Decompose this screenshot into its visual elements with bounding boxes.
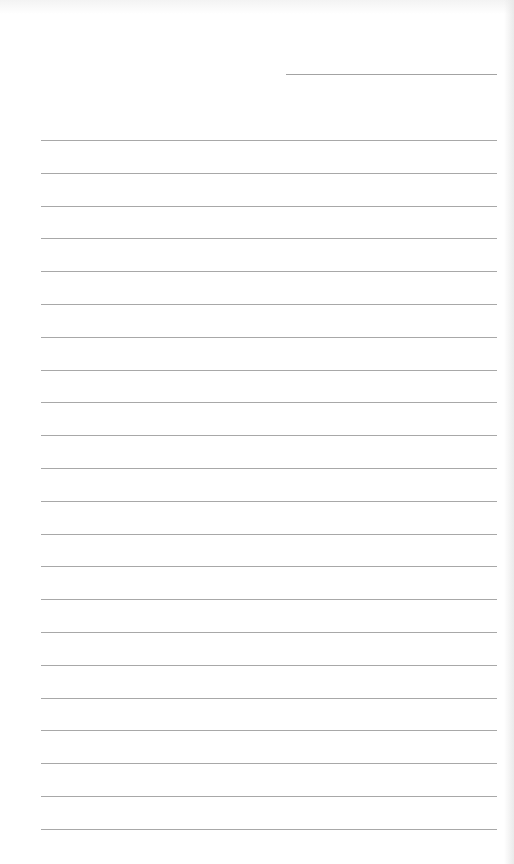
ruled-line [41,402,497,403]
ruled-line [41,566,497,567]
ruled-line [41,140,497,141]
ruled-line [41,632,497,633]
ruled-line [41,501,497,502]
ruled-line [41,304,497,305]
ruled-line [41,337,497,338]
ruled-line [41,534,497,535]
lined-paper-page [0,0,514,864]
date-line [286,74,497,75]
bleed-through-text [0,0,514,14]
ruled-line [41,829,497,830]
ruled-line [41,796,497,797]
ruled-line [41,665,497,666]
ruled-line [41,468,497,469]
ruled-line [41,271,497,272]
ruled-line [41,173,497,174]
ruled-line [41,206,497,207]
ruled-line [41,435,497,436]
page-edge-shadow [504,0,514,864]
ruled-line [41,238,497,239]
ruled-line [41,698,497,699]
ruled-line [41,730,497,731]
ruled-line [41,763,497,764]
ruled-line [41,370,497,371]
ruled-line [41,599,497,600]
